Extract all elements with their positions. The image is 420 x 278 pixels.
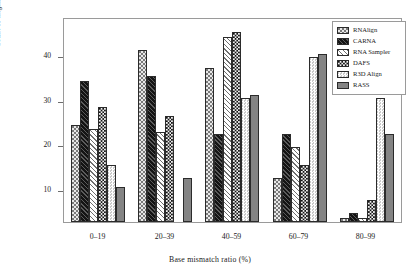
bar xyxy=(376,98,385,222)
x-tick-label-1: 20–39 xyxy=(131,232,198,241)
bar xyxy=(291,147,300,222)
y-tick-label: 10 xyxy=(43,185,51,194)
legend-item-label: RASS xyxy=(353,82,370,89)
legend-item-label: DAFS xyxy=(353,60,370,67)
bar xyxy=(340,218,349,222)
y-tick-30: 30 xyxy=(0,102,63,103)
y-tick-label: 20 xyxy=(43,140,51,149)
legend-swatch-icon xyxy=(337,38,349,45)
legend-item[interactable]: R3D Align xyxy=(337,69,402,80)
bar xyxy=(80,81,89,222)
bar xyxy=(349,213,358,222)
legend-item[interactable]: DAFS xyxy=(337,58,402,69)
x-tick-label-2: 40–59 xyxy=(198,232,265,241)
y-tick-10: 10 xyxy=(0,191,63,192)
bar xyxy=(232,32,241,222)
bar xyxy=(318,54,327,222)
bar xyxy=(358,218,367,222)
legend-item[interactable]: CARNA xyxy=(337,36,402,47)
bar-group xyxy=(199,19,266,222)
legend-item[interactable]: RNAlign xyxy=(337,25,402,36)
y-tick-40: 40 xyxy=(0,57,63,58)
bar-group xyxy=(266,19,333,222)
legend-item-label: R3D Align xyxy=(353,71,382,78)
x-axis-title: Base mismatch ratio (%) xyxy=(0,255,420,264)
y-tick-20: 20 xyxy=(0,146,63,147)
bar xyxy=(367,200,376,222)
bar xyxy=(223,37,232,222)
legend-item-label: CARNA xyxy=(353,38,376,45)
bar xyxy=(71,125,80,222)
y-tick-label: 40 xyxy=(43,51,51,60)
bar xyxy=(147,76,156,222)
bar xyxy=(165,116,174,222)
bar xyxy=(241,98,250,222)
bar xyxy=(385,134,394,222)
bar xyxy=(98,107,107,222)
x-tick-label-3: 60–79 xyxy=(265,232,332,241)
legend-item[interactable]: RNA Sampler xyxy=(337,47,402,58)
legend-item-label: RNAlign xyxy=(353,27,377,34)
bar-chart: Count of alignments 40 30 20 10 0–19 20–… xyxy=(0,0,420,278)
legend-swatch-icon xyxy=(337,82,349,89)
bar xyxy=(116,187,125,222)
bar xyxy=(138,50,147,222)
x-tick-label-0: 0–19 xyxy=(64,232,131,241)
x-tick-label-4: 80–99 xyxy=(332,232,399,241)
legend: RNAlignCARNARNA SamplerDAFSR3D AlignRASS xyxy=(332,21,406,95)
bar xyxy=(183,178,192,222)
legend-swatch-icon xyxy=(337,49,349,56)
bar-group xyxy=(64,19,131,222)
bar xyxy=(300,165,309,222)
legend-item-label: RNA Sampler xyxy=(353,49,390,56)
bar xyxy=(273,178,282,222)
y-tick-label: 30 xyxy=(43,96,51,105)
legend-item[interactable]: RASS xyxy=(337,80,402,91)
bar xyxy=(250,95,259,222)
y-axis-title: Count of alignments xyxy=(0,0,2,86)
bar xyxy=(309,57,318,222)
bar xyxy=(205,68,214,222)
bar-group xyxy=(131,19,198,222)
legend-swatch-icon xyxy=(337,60,349,67)
legend-swatch-icon xyxy=(337,27,349,34)
bar xyxy=(282,134,291,222)
bar xyxy=(214,134,223,222)
bar xyxy=(156,132,165,222)
bar xyxy=(107,165,116,222)
bar xyxy=(89,129,98,222)
legend-swatch-icon xyxy=(337,71,349,78)
